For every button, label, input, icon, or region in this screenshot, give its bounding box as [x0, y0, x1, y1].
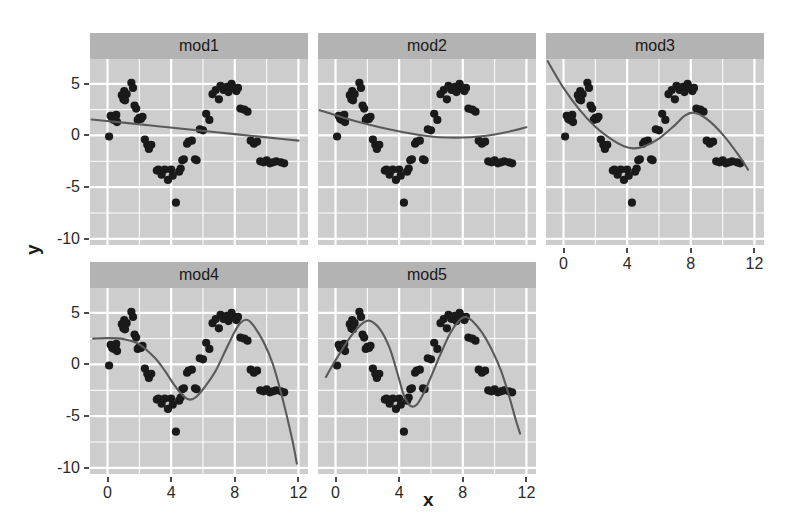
x-tick-label-mod4: 12	[290, 484, 308, 502]
y-tick-label: -5	[34, 178, 80, 196]
x-tick-mark-mod4	[297, 477, 299, 482]
facet-strip-label: mod3	[635, 37, 675, 55]
panel-area-mod3	[546, 59, 764, 245]
x-tick-label-mod4: 4	[167, 484, 176, 502]
x-tick-label-mod5: 8	[458, 484, 467, 502]
fitted-curve	[548, 61, 748, 170]
y-tick-label: 0	[34, 126, 80, 144]
x-tick-label-mod4: 8	[230, 484, 239, 502]
facet-panel-mod5: mod5	[318, 262, 536, 474]
gridlines	[90, 59, 308, 245]
y-tick-mark	[84, 134, 89, 136]
facet-strip-mod5: mod5	[318, 262, 536, 288]
facet-strip-label: mod5	[407, 266, 447, 284]
fitted-curve	[320, 110, 527, 138]
y-tick-mark	[84, 467, 89, 469]
gridlines	[546, 59, 764, 245]
x-tick-label-mod5: 0	[331, 484, 340, 502]
fitted-curve	[92, 119, 299, 140]
y-tick-label: -10	[34, 459, 80, 477]
y-tick-label: -5	[34, 407, 80, 425]
facet-strip-mod3: mod3	[546, 33, 764, 59]
x-tick-mark-mod3	[690, 248, 692, 253]
facet-panel-mod1: mod1	[90, 33, 308, 245]
x-tick-label-mod5: 12	[518, 484, 536, 502]
facet-strip-mod4: mod4	[90, 262, 308, 288]
y-tick-mark	[84, 415, 89, 417]
facet-panel-mod2: mod2	[318, 33, 536, 245]
x-tick-label-mod3: 4	[623, 255, 632, 273]
x-tick-mark-mod3	[563, 248, 565, 253]
y-tick-label: 5	[34, 304, 80, 322]
panel-area-mod4	[90, 288, 308, 474]
x-tick-mark-mod4	[107, 477, 109, 482]
x-tick-mark-mod4	[234, 477, 236, 482]
facet-strip-mod1: mod1	[90, 33, 308, 59]
y-tick-label: 5	[34, 75, 80, 93]
y-tick-label: -10	[34, 230, 80, 248]
y-tick-mark	[84, 312, 89, 314]
x-tick-mark-mod5	[462, 477, 464, 482]
x-tick-mark-mod3	[753, 248, 755, 253]
facet-panel-mod3: mod3	[546, 33, 764, 245]
gridlines	[90, 288, 308, 474]
x-tick-mark-mod5	[525, 477, 527, 482]
y-tick-mark	[84, 363, 89, 365]
y-tick-mark	[84, 186, 89, 188]
panel-area-mod1	[90, 59, 308, 245]
x-tick-mark-mod5	[398, 477, 400, 482]
facet-strip-label: mod2	[407, 37, 447, 55]
x-tick-label-mod4: 0	[103, 484, 112, 502]
gridlines	[318, 288, 536, 474]
gridlines	[318, 59, 536, 245]
x-tick-label-mod3: 0	[559, 255, 568, 273]
x-tick-mark-mod3	[626, 248, 628, 253]
x-tick-label-mod5: 4	[395, 484, 404, 502]
x-tick-mark-mod4	[170, 477, 172, 482]
panel-area-mod2	[318, 59, 536, 245]
x-tick-label-mod3: 8	[686, 255, 695, 273]
x-tick-label-mod3: 12	[746, 255, 764, 273]
facet-strip-mod2: mod2	[318, 33, 536, 59]
panel-area-mod5	[318, 288, 536, 474]
facet-panel-mod4: mod4	[90, 262, 308, 474]
y-tick-mark	[84, 83, 89, 85]
y-tick-mark	[84, 238, 89, 240]
y-tick-label: 0	[34, 355, 80, 373]
facet-strip-label: mod4	[179, 266, 219, 284]
plot-root: y x mod1 mod2 mod3 mod4 mod5 50-5-1050-5…	[0, 0, 790, 519]
x-tick-mark-mod5	[335, 477, 337, 482]
x-axis-title: x	[423, 489, 434, 511]
facet-strip-label: mod1	[179, 37, 219, 55]
